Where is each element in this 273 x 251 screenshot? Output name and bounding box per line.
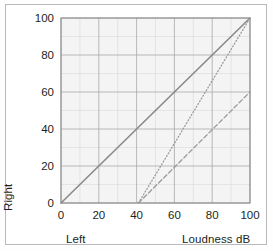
figure-frame: 020406080100 020406080100 Loudness dB Ri… [5, 4, 267, 245]
loudness-growth-chart: 020406080100 020406080100 [6, 5, 266, 244]
x-tick-label: 100 [240, 209, 259, 221]
y-tick-label: 80 [41, 49, 54, 61]
y-tick-label: 20 [41, 160, 54, 172]
x-tick-labels: 020406080100 [58, 209, 260, 221]
x-tick-label: 20 [92, 209, 105, 221]
y-tick-label: 0 [48, 197, 54, 209]
x-tick-label: 0 [58, 209, 64, 221]
y-tick-labels: 020406080100 [35, 12, 54, 209]
x-tick-label: 60 [168, 209, 181, 221]
y-axis-origin-label: Right [2, 184, 14, 211]
figure-container: 020406080100 020406080100 Loudness dB Ri… [0, 0, 273, 251]
y-tick-label: 100 [35, 12, 54, 24]
x-tick-label: 40 [130, 209, 143, 221]
y-tick-label: 40 [41, 123, 54, 135]
x-tick-label: 80 [206, 209, 219, 221]
x-axis-origin-label: Left [66, 233, 86, 245]
x-axis-title: Loudness dB [182, 233, 250, 245]
y-tick-label: 60 [41, 86, 54, 98]
